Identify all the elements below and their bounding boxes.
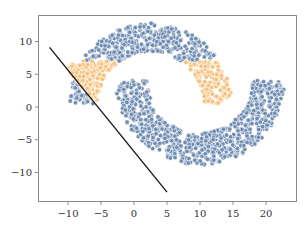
data-point <box>186 161 191 166</box>
data-point <box>78 63 83 68</box>
data-point <box>210 99 215 104</box>
data-point <box>274 97 279 102</box>
data-point <box>123 108 128 113</box>
data-point <box>205 87 210 92</box>
data-point <box>274 84 279 89</box>
data-point <box>263 83 268 88</box>
data-point <box>211 137 216 142</box>
data-point <box>225 83 230 88</box>
data-point <box>90 59 95 64</box>
data-point <box>204 75 209 80</box>
data-point <box>146 134 151 139</box>
data-point <box>228 139 233 144</box>
x-tick-label: −10 <box>57 208 78 219</box>
data-point <box>169 138 174 143</box>
data-point <box>183 44 188 49</box>
data-point <box>233 117 238 122</box>
data-point <box>153 141 158 146</box>
data-point <box>130 99 135 104</box>
data-point <box>97 72 102 77</box>
data-point <box>204 139 209 144</box>
data-point <box>253 142 258 147</box>
data-point <box>103 44 108 49</box>
data-point <box>130 40 135 45</box>
data-point <box>161 45 166 50</box>
data-point <box>160 127 165 132</box>
data-point <box>70 64 75 69</box>
data-point <box>185 149 190 154</box>
data-point <box>134 126 139 131</box>
data-point <box>91 54 96 59</box>
data-point <box>202 41 207 46</box>
y-axis: 1050−5−10 <box>11 36 39 178</box>
data-point <box>96 48 101 53</box>
data-point <box>171 125 176 130</box>
data-point <box>139 104 144 109</box>
data-point <box>222 155 227 160</box>
data-point <box>168 156 173 161</box>
data-point <box>182 55 187 60</box>
data-point <box>255 116 260 121</box>
data-point <box>215 72 220 77</box>
data-point <box>169 27 174 32</box>
data-point <box>235 146 240 151</box>
data-point <box>120 33 125 38</box>
x-tick-label: −5 <box>94 208 109 219</box>
data-point <box>156 115 161 120</box>
data-point <box>120 54 125 59</box>
data-point <box>131 107 136 112</box>
data-point <box>217 159 222 164</box>
data-point <box>169 36 174 41</box>
y-tick-label: −5 <box>17 134 32 145</box>
data-point <box>156 49 161 54</box>
data-point <box>186 138 191 143</box>
data-point <box>150 43 155 48</box>
x-tick-label: 5 <box>164 208 170 219</box>
data-point <box>75 96 80 101</box>
data-point <box>73 101 78 106</box>
data-point <box>124 113 129 118</box>
data-point <box>221 127 226 132</box>
data-point <box>129 85 134 90</box>
data-point <box>166 148 171 153</box>
data-point <box>214 78 219 83</box>
data-point <box>173 46 178 51</box>
data-point <box>185 33 190 38</box>
data-point <box>149 117 154 122</box>
data-point <box>263 111 268 116</box>
data-point <box>141 129 146 134</box>
data-point <box>120 46 125 51</box>
data-point <box>142 81 147 86</box>
data-point <box>199 64 204 69</box>
data-point <box>124 94 129 99</box>
data-point <box>197 79 202 84</box>
data-point <box>212 158 217 163</box>
data-point <box>198 159 203 164</box>
data-point <box>216 64 221 69</box>
data-point <box>196 141 201 146</box>
data-point <box>219 74 224 79</box>
data-point <box>151 124 156 129</box>
data-point <box>167 49 172 54</box>
data-point <box>249 91 254 96</box>
data-point <box>203 49 208 54</box>
data-point <box>125 120 130 125</box>
data-point <box>206 99 211 104</box>
data-point <box>260 124 265 129</box>
data-point <box>69 94 74 99</box>
data-point <box>188 67 193 72</box>
data-point <box>214 94 219 99</box>
data-point <box>265 91 270 96</box>
data-point <box>131 117 136 122</box>
data-point <box>200 148 205 153</box>
data-point <box>193 146 198 151</box>
data-point <box>68 99 73 104</box>
scatter-points <box>67 21 286 167</box>
data-point <box>259 90 264 95</box>
data-point <box>147 36 152 41</box>
y-tick-label: 0 <box>26 102 32 113</box>
data-point <box>149 21 154 26</box>
data-point <box>187 145 192 150</box>
data-point <box>192 158 197 163</box>
data-point <box>191 153 196 158</box>
